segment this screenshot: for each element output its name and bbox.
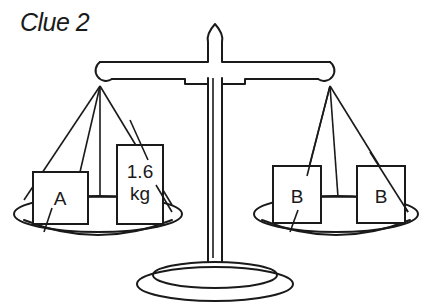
weight-box-1-6kg: 1.6 kg: [117, 145, 163, 224]
weight-b1-label: B: [291, 186, 304, 207]
weight-box-a: A: [33, 172, 88, 224]
weight-a-label: A: [54, 188, 67, 209]
scale-base: [137, 262, 293, 301]
weight-unit-label: kg: [130, 183, 150, 204]
weight-value-label: 1.6: [127, 161, 153, 182]
scale-stem: [208, 78, 222, 261]
balance-scale-illustration: A 1.6 kg B B: [0, 0, 425, 307]
weight-b2-label: B: [375, 186, 388, 207]
right-pivot-ring: [318, 62, 334, 81]
scale-beam: [96, 24, 335, 84]
left-pivot-ring: [96, 62, 112, 81]
